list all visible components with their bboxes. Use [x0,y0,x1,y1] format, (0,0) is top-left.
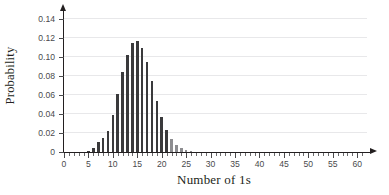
x-axis-line [63,152,371,153]
x-axis-tick-major [211,153,212,158]
x-axis-tick-minor [108,153,109,156]
x-axis-tick-minor [98,153,99,156]
x-axis-title: Number of 1s [64,172,364,188]
x-axis-tick-minor [299,153,300,156]
bar [141,48,144,152]
x-axis-tick-minor [181,153,182,156]
x-axis-tick-minor [294,153,295,156]
x-axis-tick-minor [338,153,339,156]
x-axis-tick-minor [191,153,192,156]
x-axis-tick-major [235,153,236,158]
bar [116,94,119,152]
x-axis-tick-minor [328,153,329,156]
x-axis-tick-minor [362,153,363,156]
y-axis-tick-label: 0.04 [3,109,55,119]
y-axis-tick [59,114,64,115]
x-axis-tick-minor [323,153,324,156]
y-axis-line [63,10,64,152]
x-axis-tick-label: 40 [247,159,271,169]
x-axis-tick-label: 25 [174,159,198,169]
x-axis-tick-minor [269,153,270,156]
x-axis-tick-major [308,153,309,158]
y-axis-tick-label: 0.06 [3,90,55,100]
x-axis-tick-major [259,153,260,158]
y-axis-arrow-icon [60,4,66,11]
x-axis-tick-label: 20 [150,159,174,169]
y-axis-tick-label: 0.10 [3,52,55,62]
bar [136,41,139,152]
y-axis-tick-label: 0 [3,147,55,157]
x-axis-tick-minor [303,153,304,156]
x-axis-tick-major [284,153,285,158]
x-axis-title-text: Number of 1s [177,172,251,187]
x-axis-tick-minor [220,153,221,156]
gridline [64,94,367,95]
x-axis-tick-major [137,153,138,158]
x-axis-tick-major [113,153,114,158]
x-axis-tick-minor [206,153,207,156]
x-axis-tick-major [162,153,163,158]
x-axis-tick-label: 35 [223,159,247,169]
x-axis-tick-minor [147,153,148,156]
y-axis-tick-label: 0.02 [3,128,55,138]
x-axis-tick-label: 0 [52,159,76,169]
y-axis-tick [59,19,64,20]
bar [112,115,115,152]
x-axis-tick-minor [264,153,265,156]
bar [165,130,168,152]
bar [107,131,110,152]
x-axis-tick-major [64,153,65,158]
x-axis-tick-major [88,153,89,158]
x-axis-tick-minor [172,153,173,156]
chart-figure: Probability 00.020.040.060.080.100.120.1… [0,0,389,195]
x-axis-tick-minor [216,153,217,156]
x-axis-tick-label: 50 [296,159,320,169]
bar [160,117,163,152]
x-axis-tick-minor [318,153,319,156]
x-axis-tick-minor [167,153,168,156]
x-axis-tick-major [186,153,187,158]
x-axis-tick-minor [274,153,275,156]
x-axis-tick-minor [103,153,104,156]
bar [131,43,134,152]
x-axis-tick-minor [93,153,94,156]
y-axis-tick [59,57,64,58]
x-axis-tick-minor [201,153,202,156]
x-axis-tick-minor [132,153,133,156]
y-axis-tick [59,76,64,77]
x-axis-tick-minor [176,153,177,156]
x-axis-tick-minor [128,153,129,156]
x-axis-tick-minor [84,153,85,156]
x-axis-tick-label: 55 [321,159,345,169]
bar [126,55,129,152]
plot-area [64,14,367,152]
x-axis-tick-minor [74,153,75,156]
gridline [64,18,367,19]
bar [121,72,124,152]
y-axis-tick-label: 0.08 [3,71,55,81]
x-axis-tick-minor [142,153,143,156]
y-axis-tick [59,38,64,39]
x-axis-tick-minor [245,153,246,156]
gridline [64,132,367,133]
x-axis-tick-minor [347,153,348,156]
bar [156,101,159,152]
x-axis-tick-label: 30 [199,159,223,169]
y-axis-tick [59,133,64,134]
gridline [64,113,367,114]
x-axis-tick-minor [343,153,344,156]
x-axis-tick-minor [255,153,256,156]
x-axis-tick-minor [79,153,80,156]
y-axis-tick-label: 0.14 [3,14,55,24]
gridline [64,37,367,38]
x-axis-tick-label: 45 [272,159,296,169]
x-axis-tick-minor [118,153,119,156]
x-axis-tick-major [333,153,334,158]
x-axis-tick-minor [250,153,251,156]
x-axis-tick-minor [225,153,226,156]
x-axis-tick-minor [289,153,290,156]
x-axis-tick-minor [123,153,124,156]
bar [151,81,154,152]
gridline [64,75,367,76]
gridline [64,56,367,57]
